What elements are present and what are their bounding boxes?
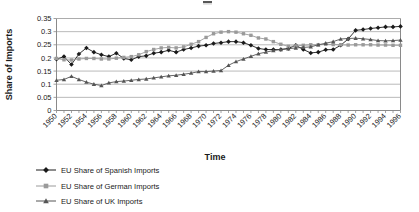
series-1-point (77, 57, 80, 60)
series-0-point (256, 46, 261, 51)
series-1-point (115, 56, 118, 59)
series-0-point (234, 39, 239, 44)
top-edge-artifact (203, 1, 212, 5)
ytick-label-2: 0.1 (41, 80, 51, 89)
xtick-label-10: 1970 (190, 112, 208, 130)
series-0-point (241, 40, 246, 45)
series-1-point (219, 30, 222, 33)
series-1-point (85, 57, 88, 60)
legend-label-0: EU Share of Spanish Imports (61, 166, 160, 175)
series-0-point (316, 50, 321, 55)
series-1-point (145, 50, 148, 53)
series-0-point (376, 25, 381, 30)
xtick-label-19: 1988 (325, 112, 343, 130)
ytick-label-4: 0.2 (41, 54, 51, 63)
legend-marker-diamond-icon (43, 167, 49, 173)
series-0-point (219, 40, 224, 45)
series-1-point (227, 30, 230, 33)
series-0-point (398, 24, 403, 29)
xtick-label-22: 1994 (370, 112, 388, 130)
series-0-point (189, 46, 194, 51)
xtick-label-21: 1992 (355, 112, 373, 130)
legend-marker-square-icon (44, 184, 49, 189)
series-1-point (182, 45, 185, 48)
series-0-point (331, 47, 336, 52)
xtick-label-16: 1982 (280, 112, 298, 130)
series-1-point (279, 43, 282, 46)
series-0-point (174, 50, 179, 55)
xtick-label-8: 1966 (160, 112, 178, 130)
xtick-label-11: 1972 (205, 112, 223, 130)
series-0-point (249, 43, 254, 48)
series-1-point (92, 57, 95, 60)
series-1-point (62, 58, 65, 61)
series-1-point (70, 58, 73, 61)
xtick-label-9: 1968 (175, 112, 193, 130)
series-1-point (55, 57, 58, 60)
xtick-label-17: 1984 (295, 112, 313, 130)
xtick-label-5: 1960 (116, 112, 134, 130)
series-1-point (137, 53, 140, 56)
xtick-label-3: 1956 (86, 112, 104, 130)
series-1-point (107, 57, 110, 60)
series-1-point (174, 46, 177, 49)
series-1-point (204, 36, 207, 39)
legend-label-2: EU Share of UK Imports (61, 197, 143, 206)
series-0-point (144, 54, 149, 59)
series-1-point (331, 43, 334, 46)
series-1-point (159, 46, 162, 49)
xtick-label-23: 1996 (385, 112, 403, 130)
series-0-point (323, 47, 328, 52)
series-1-point (100, 57, 103, 60)
series-0-point (159, 50, 164, 55)
xtick-label-13: 1976 (235, 112, 253, 130)
series-1-point (122, 56, 125, 59)
xtick-label-14: 1978 (250, 112, 268, 130)
series-0-point (99, 52, 104, 57)
series-1-point (197, 40, 200, 43)
xtick-label-1: 1952 (56, 112, 74, 130)
line-chart: 00.050.10.150.20.250.30.3519501952195419… (0, 0, 419, 212)
series-1-point (376, 43, 379, 46)
series-1-point (369, 43, 372, 46)
series-1-point (361, 43, 364, 46)
series-1-point (399, 44, 402, 47)
series-1-point (152, 48, 155, 51)
series-1-point (189, 43, 192, 46)
xtick-label-4: 1958 (101, 112, 119, 130)
series-1-point (257, 36, 260, 39)
ytick-label-1: 0.05 (37, 93, 52, 102)
series-0-point (361, 27, 366, 32)
xtick-label-15: 1980 (265, 112, 283, 130)
series-1-point (212, 32, 215, 35)
series-1-point (346, 43, 349, 46)
y-axis-title: Share of Imports (4, 29, 14, 101)
ytick-label-6: 0.3 (41, 27, 51, 36)
series-0-point (151, 51, 156, 56)
series-0-point (391, 25, 396, 30)
ytick-label-5: 0.25 (37, 40, 52, 49)
series-1-point (264, 37, 267, 40)
xtick-label-20: 1990 (340, 112, 358, 130)
series-1-point (384, 43, 387, 46)
chart-container: 00.050.10.150.20.250.30.3519501952195419… (0, 0, 419, 212)
xtick-label-0: 1950 (41, 112, 59, 130)
series-0-point (308, 51, 313, 56)
series-0-point (383, 25, 388, 30)
xtick-label-12: 1974 (220, 112, 238, 130)
series-0-point (204, 43, 209, 48)
series-0-point (92, 50, 97, 55)
series-2-point (69, 74, 73, 78)
legend-label-1: EU Share of German Imports (61, 182, 160, 191)
series-0-point (226, 39, 231, 44)
x-axis-title: Time (205, 152, 226, 162)
xtick-label-7: 1964 (145, 112, 163, 130)
series-1-point (272, 40, 275, 43)
series-1-point (391, 44, 394, 47)
series-1-point (130, 55, 133, 58)
series-1-point (234, 30, 237, 33)
ytick-label-3: 0.15 (37, 67, 52, 76)
series-2-point (226, 63, 230, 67)
xtick-label-18: 1986 (310, 112, 328, 130)
series-1-point (339, 43, 342, 46)
